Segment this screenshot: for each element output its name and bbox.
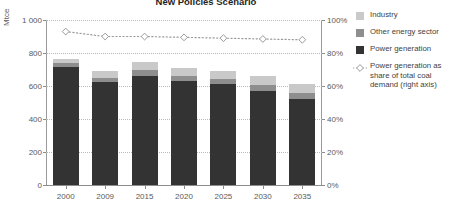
line-marker-icon — [356, 63, 364, 71]
y-axis-tick-label: 0 — [38, 181, 42, 190]
y-axis-title: Mtce — [2, 9, 11, 26]
power-generation-swatch — [356, 46, 364, 54]
chart-title: New Policies Scenario — [96, 0, 316, 8]
share-line-marker-2025 — [220, 35, 227, 42]
share-line-marker-2030 — [259, 36, 266, 43]
x-axis-label-2035: 2035 — [282, 192, 322, 201]
x-axis-label-2020: 2020 — [164, 192, 204, 201]
x-axis-tick — [145, 185, 146, 189]
y2-axis-tick — [322, 152, 325, 153]
x-axis-tick — [223, 185, 224, 189]
y2-axis-tick-label: 60% — [327, 82, 343, 91]
y-axis-tick-label: 200 — [29, 148, 42, 157]
legend-item-2[interactable]: Power generation — [356, 44, 452, 54]
chart-legend: IndustryOther energy sectorPower generat… — [356, 10, 452, 97]
chart-container: New Policies Scenario Mtce 1 00080060040… — [0, 0, 452, 212]
x-axis-tick — [184, 185, 185, 189]
share-line-marker-2009 — [102, 33, 109, 40]
y-axis-tick-label: 1 000 — [22, 16, 42, 25]
x-axis-tick — [66, 185, 67, 189]
y2-axis-tick — [322, 119, 325, 120]
legend-item-0[interactable]: Industry — [356, 10, 452, 20]
legend-label: Other energy sector — [370, 27, 439, 37]
y2-axis-tick-label: 80% — [327, 49, 343, 58]
share-line-series — [46, 20, 322, 185]
share-line-marker-2015 — [141, 33, 148, 40]
y2-axis-tick — [322, 86, 325, 87]
x-axis-tick — [302, 185, 303, 189]
y2-axis-tick-label: 40% — [327, 115, 343, 124]
x-axis-label-2015: 2015 — [125, 192, 165, 201]
x-axis-label-2030: 2030 — [243, 192, 283, 201]
y-axis-tick — [43, 185, 46, 186]
y-axis-tick-label: 600 — [29, 82, 42, 91]
legend-label: Power generation — [370, 44, 431, 54]
y-axis-tick-label: 400 — [29, 115, 42, 124]
y2-axis-tick-label: 0% — [327, 181, 339, 190]
share-line-marker-2035 — [299, 36, 306, 43]
legend-label: Industry — [370, 10, 398, 20]
y2-axis-tick — [322, 20, 325, 21]
legend-item-3[interactable]: Power generation as share of total coal … — [356, 61, 452, 90]
y-axis-tick-label: 800 — [29, 49, 42, 58]
y2-axis-tick-label: 100% — [327, 16, 347, 25]
share-line-marker-2000 — [62, 28, 69, 35]
x-axis-tick — [105, 185, 106, 189]
y2-axis-tick — [322, 185, 325, 186]
x-axis-tick — [263, 185, 264, 189]
plot-area: 1 0008006004002000 100%80%60%40%20%0% 20… — [46, 20, 322, 185]
legend-item-1[interactable]: Other energy sector — [356, 27, 452, 37]
y2-axis-tick-label: 20% — [327, 148, 343, 157]
x-axis-label-2009: 2009 — [85, 192, 125, 201]
legend-label: Power generation as share of total coal … — [370, 61, 452, 90]
y2-axis-tick — [322, 53, 325, 54]
industry-swatch — [356, 12, 364, 20]
share-line-marker-2020 — [181, 34, 188, 41]
x-axis-label-2025: 2025 — [203, 192, 243, 201]
x-axis-label-2000: 2000 — [46, 192, 86, 201]
other-energy-swatch — [356, 29, 364, 37]
